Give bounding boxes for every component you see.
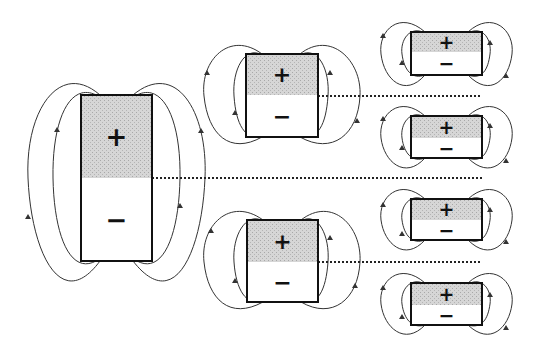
arrow-up-icon bbox=[54, 127, 60, 132]
plus-sign: + bbox=[106, 122, 128, 152]
minus-sign: − bbox=[273, 270, 291, 295]
minus-sign: − bbox=[106, 205, 128, 235]
plus-sign: + bbox=[273, 62, 291, 87]
dipole-small-2: +− bbox=[411, 116, 482, 159]
plus-sign: + bbox=[273, 229, 291, 254]
dipole-small-3: +− bbox=[411, 198, 482, 241]
plus-sign: + bbox=[439, 31, 455, 53]
plus-sign: + bbox=[439, 198, 455, 220]
plus-sign: + bbox=[439, 283, 455, 305]
dipole-splitting-diagram: +−+−+−+−+−+−+− bbox=[0, 0, 540, 363]
dipole-medium-top: +− bbox=[246, 54, 318, 137]
minus-sign: − bbox=[273, 104, 291, 129]
dipole-small-4: +− bbox=[411, 283, 482, 326]
dipole-medium-bottom: +− bbox=[247, 220, 318, 302]
arrow-up-icon bbox=[25, 214, 31, 219]
minus-sign: − bbox=[439, 304, 455, 326]
plus-sign: + bbox=[439, 116, 455, 138]
minus-sign: − bbox=[439, 137, 455, 159]
minus-sign: − bbox=[439, 219, 455, 241]
dipole-small-1: +− bbox=[411, 31, 482, 75]
arrow-up-icon bbox=[198, 128, 204, 133]
dipole-large: +− bbox=[81, 95, 152, 261]
minus-sign: − bbox=[439, 52, 455, 74]
